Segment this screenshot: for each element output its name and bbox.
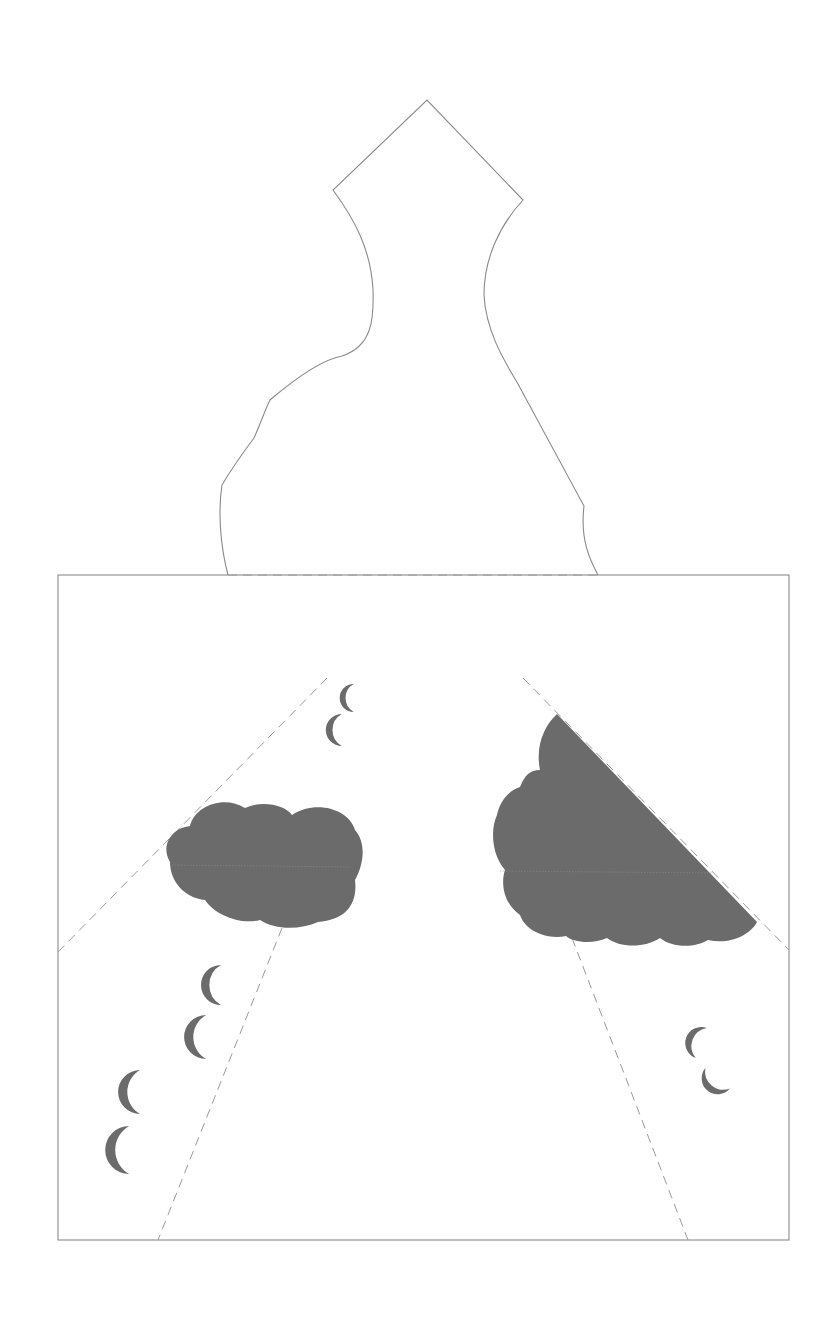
vase-outline: [220, 100, 598, 575]
clouds-layer: [166, 714, 757, 946]
right-cloud-shape: [493, 714, 757, 946]
panels-layer: [58, 100, 789, 1240]
raindrop-1-crescent-icon: [340, 684, 354, 712]
left-lower-fold: [158, 928, 282, 1240]
raindrop-3-crescent-icon: [201, 965, 221, 1005]
raindrop-2-crescent-icon: [326, 714, 342, 746]
raindrop-7-crescent-icon: [681, 1023, 707, 1059]
raindrop-5-crescent-icon: [118, 1070, 140, 1114]
raindrop-6-crescent-icon: [105, 1126, 129, 1174]
right-lower-fold: [572, 938, 688, 1240]
right-cloud: [493, 714, 757, 946]
raindrop-8-crescent-icon: [695, 1068, 730, 1101]
left-cloud: [166, 802, 362, 928]
papercraft-template: [0, 0, 835, 1331]
left-cloud-shape: [166, 802, 362, 928]
raindrop-4-crescent-icon: [184, 1015, 206, 1059]
